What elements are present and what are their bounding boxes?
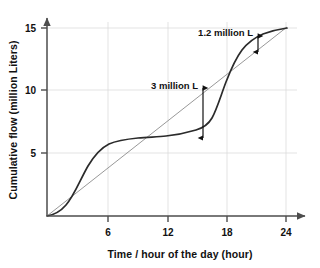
- y-tick-label-15: 15: [25, 23, 37, 34]
- average-flow-reference-line: [47, 27, 287, 216]
- deficit-annotation: 3 million L: [151, 80, 203, 138]
- x-axis-title: Time / hour of the day (hour): [107, 248, 252, 260]
- y-axis-ticks: [41, 28, 47, 153]
- cumulative-flow-chart: 6 12 18 24 5 10 15 Time / hour of the da…: [0, 0, 320, 268]
- deficit-annotation-label: 3 million L: [151, 80, 198, 91]
- y-tick-label-5: 5: [30, 148, 36, 159]
- y-tick-label-10: 10: [25, 85, 37, 96]
- y-axis-title: Cumulative flow (million Liters): [7, 41, 19, 200]
- surplus-annotation: 1.2 million L: [198, 27, 258, 52]
- x-tick-label-24: 24: [280, 227, 292, 238]
- x-tick-label-12: 12: [162, 227, 174, 238]
- chart-figure: 6 12 18 24 5 10 15 Time / hour of the da…: [0, 0, 320, 268]
- x-tick-label-18: 18: [221, 227, 233, 238]
- surplus-annotation-label: 1.2 million L: [198, 27, 253, 38]
- x-tick-label-6: 6: [105, 227, 111, 238]
- x-axis-ticks: [108, 216, 286, 222]
